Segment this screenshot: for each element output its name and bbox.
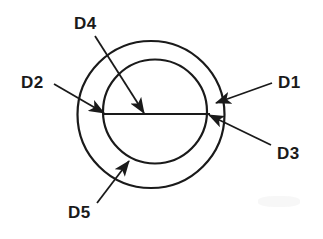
callout-label-d1: D1: [278, 74, 301, 91]
callout-label-d2: D2: [21, 74, 44, 91]
leader-line-d2: [54, 84, 104, 113]
callout-label-d3: D3: [277, 145, 300, 162]
scan-artifact: [258, 196, 300, 207]
inner-circle: [103, 60, 207, 164]
leader-line-d1: [216, 83, 272, 103]
leader-line-d3: [209, 115, 271, 145]
rings-group: [78, 41, 225, 188]
callout-label-d5: D5: [68, 204, 91, 221]
callout-label-d4: D4: [74, 15, 97, 32]
diagram-canvas: D1 D2 D3 D4 D5: [0, 0, 323, 239]
